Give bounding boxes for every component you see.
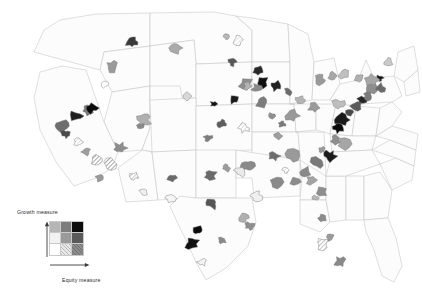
metro-area: Tampa: [318, 239, 328, 251]
map-figure: SeattlePortlandEugeneSpokaneBoiseRenoSac…: [0, 0, 422, 295]
legend-cell-r0-c1: [61, 222, 72, 233]
metro-area: Portland ME: [384, 58, 393, 66]
legend-cell-r1-c2: [72, 233, 83, 244]
legend-color-grid: [50, 222, 83, 255]
legend-cell-r1-c0: [50, 233, 61, 244]
metro-area: Syracuse: [338, 69, 349, 79]
legend-cell-r2-c1: [61, 244, 72, 255]
legend-cell-r1-c1: [61, 233, 72, 244]
metro-area: Eugene: [101, 81, 109, 88]
metro-area: Miami: [334, 257, 346, 267]
legend-cell-r2-c0: [50, 244, 61, 255]
legend-cell-r0-c0: [50, 222, 61, 233]
equity-axis-arrow: [50, 262, 90, 268]
legend-cell-r0-c2: [72, 222, 83, 233]
legend-y-axis-label: Growth measure: [17, 209, 58, 215]
legend-x-axis-label: Equity measure: [62, 277, 101, 283]
bivariate-legend: Growth measure Equity measure: [8, 205, 138, 290]
legend-cell-r2-c2: [72, 244, 83, 255]
